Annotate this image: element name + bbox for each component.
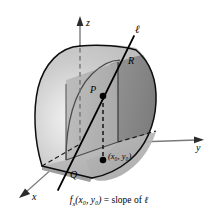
caption-arguments: (x₀, y₀) xyxy=(75,195,101,205)
z-axis-label: z xyxy=(86,18,90,28)
point-P-label: P xyxy=(90,85,96,95)
diagram-canvas xyxy=(0,0,218,217)
point-Q-label: Q xyxy=(70,170,77,180)
caption-equals: = xyxy=(104,195,109,205)
point-base-marker xyxy=(100,157,107,164)
caption-rhs: slope of xyxy=(112,195,142,205)
caption-line-symbol: ℓ xyxy=(144,195,148,205)
tangent-line-label: ℓ xyxy=(135,24,140,35)
base-point-label: (x₀, y₀) xyxy=(108,152,131,161)
point-R-label: R xyxy=(128,56,134,66)
partial-derivative-figure: z y x ℓ R P Q (x₀, y₀) fx(x₀, y₀) = slop… xyxy=(0,0,218,217)
z-axis-arrowhead xyxy=(77,16,84,26)
y-axis-label: y xyxy=(196,143,200,153)
figure-caption: fx(x₀, y₀) = slope of ℓ xyxy=(0,196,218,207)
point-P-marker xyxy=(100,93,107,100)
